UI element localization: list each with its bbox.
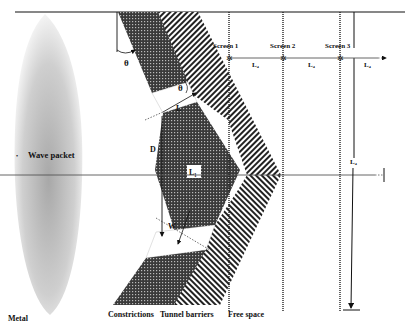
screen2-label: Screen 2 (270, 42, 296, 50)
theta-inner-label: θ (178, 83, 183, 93)
constrictions-label: Constrictions (108, 310, 154, 319)
wave-packet-label: Wave packet (28, 150, 75, 160)
theta-top-label: θ (124, 58, 129, 68)
screen3-label: Screen 3 (325, 42, 351, 50)
L4-vertical-label: L₄ (350, 158, 358, 166)
metal-label: Metal (8, 314, 29, 323)
free-space-label: Free space (228, 310, 265, 319)
L-label: L (176, 104, 181, 113)
L1-center-label: L₁ (189, 168, 197, 177)
wave-packet-shape (15, 14, 83, 315)
screen1-label: Screen 1 (213, 42, 239, 50)
W-label: W (168, 222, 176, 231)
screen3-marker-icon: ✲ (337, 54, 344, 63)
screen1-marker-icon: ✲ (226, 54, 233, 63)
L-dotted-extension (145, 112, 163, 120)
L4-label-b: L₄ (308, 61, 316, 69)
wave-packet-dot-icon: • (16, 153, 18, 159)
screen2-marker-icon: ✲ (280, 54, 287, 63)
vertical-L4-arrow (351, 168, 353, 308)
tunnel-barriers-label: Tunnel barriers (160, 310, 214, 319)
theta-arc-top (117, 50, 135, 53)
L4-label-c: L₄ (364, 61, 372, 69)
tunneling-diagram: θ θ L D W L₁ L₄ Screen 1 Screen 2 Screen… (0, 0, 409, 331)
L4-label-a: L₄ (252, 61, 260, 69)
D-label: D (150, 145, 156, 154)
